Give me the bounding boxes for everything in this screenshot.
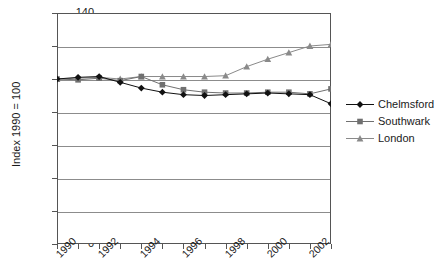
legend-label: Chelmsford <box>378 98 434 111</box>
legend-item-chelmsford[interactable]: Chelmsford <box>345 96 428 113</box>
x-tick-mark <box>247 244 248 249</box>
x-tick-mark <box>162 244 163 249</box>
chart-legend: ChelmsfordSouthwarkLondon <box>345 96 428 147</box>
legend-label: Southwark <box>378 115 430 128</box>
square-marker <box>139 74 145 80</box>
legend-item-london[interactable]: London <box>345 130 428 147</box>
square-marker <box>357 119 363 125</box>
legend-label: London <box>378 132 415 145</box>
x-tick-mark <box>78 244 79 249</box>
diamond-marker <box>357 101 364 108</box>
legend-marker-diamond-icon <box>345 96 375 113</box>
x-tick-mark <box>120 244 121 249</box>
diamond-marker <box>159 89 166 96</box>
legend-marker-triangle-icon <box>345 130 375 147</box>
x-tick-mark <box>205 244 206 249</box>
series-layer <box>57 13 331 244</box>
x-tick-mark <box>289 244 290 249</box>
triangle-marker <box>243 63 250 69</box>
legend-marker-square-icon <box>345 113 375 130</box>
square-marker <box>328 86 331 92</box>
x-tick-mark <box>331 244 332 249</box>
series-line <box>57 44 331 79</box>
legend-item-southwark[interactable]: Southwark <box>345 113 428 130</box>
y-axis-title: Index 1990 = 100 <box>10 81 22 166</box>
diamond-marker <box>328 100 331 107</box>
diamond-marker <box>138 85 145 92</box>
square-marker <box>160 82 166 88</box>
